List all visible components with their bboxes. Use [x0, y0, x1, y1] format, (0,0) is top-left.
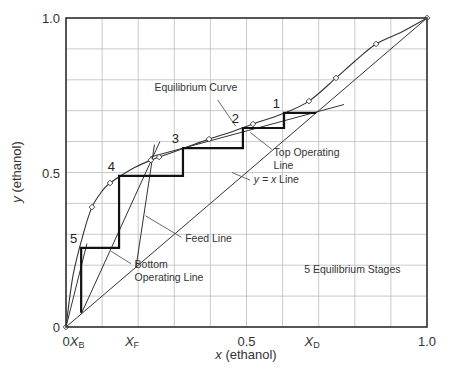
- stage-label: 1: [273, 96, 280, 111]
- annotation-label: Equilibrium Curve: [154, 81, 237, 93]
- stage-label: 5: [70, 231, 77, 246]
- annotation-label: Operating Line: [135, 271, 204, 283]
- y-tick-label: 1.0: [42, 11, 60, 26]
- annotation-label: 5 Equilibrium Stages: [304, 263, 400, 275]
- x-special-tick-label: XB: [69, 334, 85, 350]
- annotation-leader-line: [232, 173, 250, 181]
- equilibrium-data-marker: [89, 204, 95, 210]
- equilibrium-data-marker: [250, 121, 256, 127]
- x-tick-label: 0: [62, 334, 69, 349]
- left-construction-line: [66, 244, 87, 327]
- stage-label: 4: [108, 159, 115, 174]
- annotation-label: Feed Line: [185, 232, 232, 244]
- bottom-operating-line: [81, 142, 160, 314]
- annotation-label: Bottom: [135, 258, 169, 270]
- y-tick-label: 0.5: [42, 166, 60, 181]
- x-tick-label: 1.0: [418, 334, 436, 349]
- y-tick-label: 0: [53, 320, 60, 335]
- mccabe-thiele-chart: Equilibrium CurveTop OperatingLiney = x …: [0, 0, 452, 379]
- y-axis-label: y (ethanol): [9, 141, 24, 203]
- annotation-leader-line: [250, 132, 272, 149]
- annotation-label: y = x Line: [253, 173, 299, 185]
- stage-label: 3: [172, 131, 179, 146]
- x-special-tick-label: XD: [304, 334, 321, 350]
- annotation-label: Line: [274, 159, 294, 171]
- annotation-leader-line: [111, 251, 131, 263]
- x-axis-label: x (ethanol): [214, 347, 276, 362]
- annotation-label: Top Operating: [274, 146, 340, 158]
- x-special-tick-label: XF: [124, 334, 140, 350]
- axis-ticks: 00.51.000.51.0XBXFXD: [42, 11, 436, 350]
- stage-label: 2: [232, 111, 239, 126]
